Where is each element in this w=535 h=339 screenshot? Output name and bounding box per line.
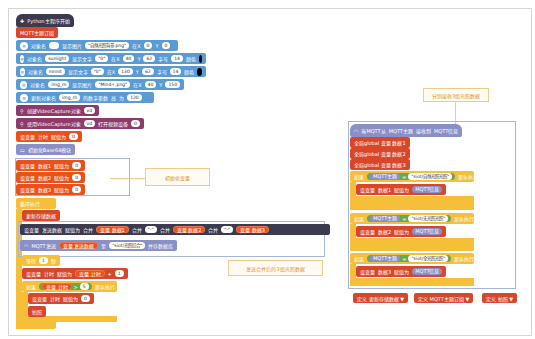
global-var2[interactable]: 全局global 变量 数据2 — [350, 148, 410, 159]
mqtt-subscribe-call[interactable]: MQTT主题订阅 — [16, 27, 58, 38]
display-image-block[interactable]: ≡ 对象名 显示图片 "自然光照背景.png" 在X 0 Y 0 — [16, 40, 178, 51]
topic-compare[interactable]: MQTT主题 = "siot/全光照光照" — [367, 255, 451, 262]
if-footer — [350, 238, 474, 251]
camera-icon: ⚲ — [20, 108, 24, 114]
def-update-storage[interactable]: 定义 更新存储数据 ▼ — [353, 293, 408, 303]
display-icon: ≡ — [20, 94, 28, 102]
init-var3-block[interactable]: 设变量 数据3 赋值为 0 — [16, 184, 85, 195]
puzzle-icon: ✚ — [20, 18, 24, 24]
topic-compare[interactable]: MQTT主题 = "siot/自然光照光照" — [367, 173, 455, 180]
wait-block[interactable]: 等待 1 秒 — [22, 255, 60, 266]
video-create-block[interactable]: ⚲ 创建VideoCapture对象 vd — [16, 105, 99, 116]
set-send-data-block[interactable]: 设变量 发送数据 赋值为 合并 变量 数据1 合并 "-" 合并 变量 数据2 … — [20, 224, 330, 235]
if-topic1-block[interactable]: 如果 MQTT主题 = "siot/自然光照光照" 那么执行 — [350, 171, 474, 182]
mqtt-send-block[interactable]: ◠ MQTT发送 变量 发送数据 至 "siot/光照综合" 并存数据库 — [20, 240, 177, 251]
color-swatch[interactable] — [199, 55, 202, 63]
init-var2-block[interactable]: 设变量 数据2 赋值为 0 — [16, 172, 85, 183]
camera-icon: ⚲ — [20, 121, 24, 127]
global-var1[interactable]: 全局global 变量 数据1 — [350, 137, 410, 148]
if-footer — [350, 196, 474, 210]
note-receive: 分别接收3组光照数据 — [423, 88, 489, 102]
call-update-func[interactable]: 更新存储数据 — [22, 210, 60, 221]
video-open-block[interactable]: ⚲ 使用VideoCapture对象 vd 打开视频设备 0 — [16, 118, 144, 129]
compare-condition[interactable]: 变量 计时 > 5 — [39, 283, 92, 290]
topic-compare[interactable]: MQTT主题 = "siot/无光照光照" — [367, 215, 451, 222]
init-var1-block[interactable]: 设变量 数据1 赋值为 0 — [16, 160, 85, 171]
mqtt-receive-hat[interactable]: ◠ 当MQTT从 MQTT主题 接收到 MQTT信息 — [350, 124, 462, 137]
display-text-sunlight-block[interactable]: ≡ 对象名 sunlight 显示文字 "0" 在X 40 Y 62 字号 14… — [16, 53, 206, 64]
display-icon: ≡ — [20, 68, 25, 76]
call-photo-block[interactable]: 拍照 — [28, 306, 46, 317]
display-icon: ≡ — [20, 81, 27, 89]
set-var2-block[interactable]: 设变量 数据2 赋值为 MQTT信息 — [356, 226, 446, 237]
display-image-mind-block[interactable]: ≡ 对象名 img_m 显示图片 "Mind+.png" 在X 40 Y 150 — [16, 79, 184, 90]
display-icon: ≡ — [20, 55, 24, 63]
loop-block[interactable]: 循环执行 — [16, 198, 56, 209]
init-base64-block[interactable]: ▭ 初始化Base64模块 — [16, 144, 75, 155]
color-swatch[interactable] — [197, 68, 202, 76]
display-text-mnnit-block[interactable]: ≡ 对象名 mnnit 显示文字 "0" 在X 130 Y 62 字号 14 颜… — [16, 66, 206, 77]
set-var1-block[interactable]: 设变量 数据1 赋值为 MQTT信息 — [356, 184, 446, 195]
wifi-icon: ◠ — [354, 128, 358, 134]
wifi-icon: ◠ — [24, 243, 28, 249]
display-icon: ≡ — [20, 42, 28, 50]
module-icon: ▭ — [20, 147, 25, 153]
note-init-vars: 初始化变量 — [145, 168, 210, 186]
set-timer-block[interactable]: 设变量 计时 赋值为 0 — [16, 131, 82, 142]
connector-line — [110, 178, 145, 179]
set-var3-block[interactable]: 设变量 数据3 赋值为 MQTT信息 — [356, 266, 446, 277]
note-send: 发送合并后的3组光照数据 — [228, 260, 323, 276]
if-topic2-block[interactable]: 如果 MQTT主题 = "siot/无光照光照" 那么执行 — [350, 213, 474, 224]
reset-timer-block[interactable]: 设变量 计时 赋值为 0 — [28, 293, 94, 304]
python-start-hat[interactable]: ✚ Python主程序开始 — [16, 14, 74, 27]
if-footer — [350, 278, 474, 286]
timer-increment-block[interactable]: 设变量 计时 赋值为 变量 计时 + 1 — [22, 268, 128, 279]
if-topic3-block[interactable]: 如果 MQTT主题 = "siot/全光照光照" 那么执行 — [350, 253, 474, 264]
def-mqtt-subscribe[interactable]: 定义 MQTT主题订阅 ▼ — [414, 293, 473, 303]
global-var3[interactable]: 全局global 变量 数据3 — [350, 159, 410, 170]
def-photo[interactable]: 定义 拍照 ▼ — [482, 293, 517, 303]
update-param-block[interactable]: ≡ 更新对象名 img_m 的数字参数 高 为 120 — [16, 92, 154, 103]
if-block[interactable]: 如果 变量 计时 > 5 那么执行 — [22, 281, 117, 292]
